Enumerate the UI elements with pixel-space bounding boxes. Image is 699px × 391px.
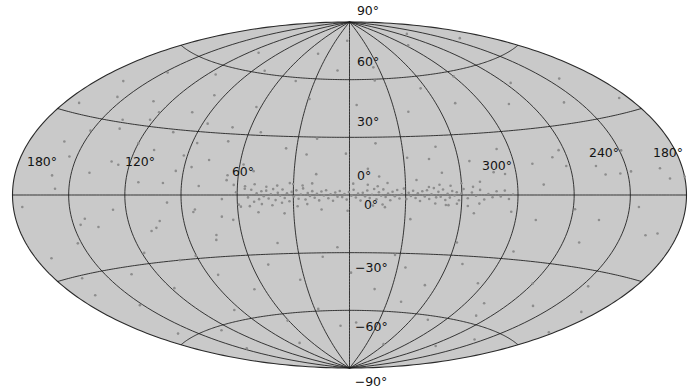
source-point bbox=[299, 278, 302, 281]
source-point bbox=[414, 197, 417, 200]
source-point bbox=[578, 241, 581, 244]
source-point bbox=[427, 318, 430, 321]
source-point bbox=[77, 242, 80, 245]
source-point bbox=[294, 80, 297, 83]
source-point bbox=[336, 246, 339, 249]
source-point bbox=[172, 131, 175, 134]
source-point bbox=[441, 171, 444, 174]
source-point bbox=[548, 331, 551, 334]
source-point bbox=[265, 189, 268, 192]
tick-label-lon-180-right: 180° bbox=[653, 145, 683, 160]
tick-label-lon-240: 240° bbox=[589, 145, 619, 160]
source-point bbox=[289, 182, 292, 185]
source-point bbox=[428, 186, 431, 189]
source-point bbox=[94, 294, 97, 297]
source-point bbox=[404, 266, 407, 269]
source-point bbox=[297, 197, 300, 200]
source-point bbox=[232, 219, 235, 222]
source-point bbox=[122, 80, 125, 83]
source-point bbox=[350, 271, 353, 274]
source-point bbox=[435, 196, 438, 199]
source-point bbox=[232, 184, 235, 187]
source-point bbox=[487, 193, 490, 196]
source-point bbox=[428, 158, 431, 161]
source-point bbox=[143, 252, 146, 255]
source-point bbox=[267, 197, 270, 200]
source-point bbox=[152, 100, 155, 103]
source-point bbox=[595, 165, 598, 168]
tick-label-lon-0: 0° bbox=[364, 197, 378, 212]
source-point bbox=[118, 127, 121, 130]
source-point bbox=[380, 194, 383, 197]
tick-label-lat-60: 60° bbox=[357, 54, 379, 69]
source-point bbox=[300, 193, 303, 196]
source-point bbox=[51, 174, 54, 177]
source-point bbox=[276, 242, 279, 245]
source-point bbox=[458, 37, 461, 40]
source-point bbox=[260, 190, 263, 193]
source-point bbox=[311, 182, 314, 185]
source-point bbox=[296, 205, 299, 208]
source-point bbox=[445, 204, 448, 207]
source-point bbox=[504, 173, 507, 176]
source-point bbox=[227, 140, 230, 143]
source-point bbox=[479, 189, 482, 192]
source-point bbox=[442, 188, 445, 191]
source-point bbox=[260, 131, 263, 134]
source-point bbox=[286, 192, 289, 195]
source-point bbox=[166, 71, 169, 74]
source-point bbox=[669, 177, 672, 180]
source-point bbox=[274, 199, 277, 202]
aitoff-projection-plot: 180°120°60°0°300°240°180°90°60°30°0°−30°… bbox=[0, 0, 699, 391]
source-point bbox=[542, 183, 545, 186]
source-point bbox=[473, 212, 476, 215]
source-point bbox=[475, 314, 478, 317]
source-point bbox=[352, 189, 355, 192]
source-point bbox=[434, 145, 437, 148]
source-point bbox=[587, 285, 590, 288]
source-point bbox=[329, 193, 332, 196]
source-point bbox=[355, 104, 358, 107]
source-point bbox=[477, 282, 480, 285]
source-point bbox=[473, 338, 476, 341]
source-point bbox=[439, 195, 442, 198]
source-point bbox=[247, 196, 250, 199]
source-point bbox=[68, 155, 71, 158]
source-point bbox=[192, 211, 195, 214]
source-point bbox=[281, 188, 284, 191]
source-point bbox=[407, 192, 410, 195]
source-point bbox=[281, 202, 284, 205]
source-point bbox=[371, 194, 374, 197]
source-point bbox=[378, 175, 381, 178]
source-point bbox=[321, 255, 324, 258]
source-point bbox=[357, 192, 360, 195]
source-point bbox=[348, 191, 351, 194]
source-point bbox=[417, 192, 420, 195]
source-point bbox=[290, 191, 293, 194]
source-point bbox=[153, 149, 156, 152]
source-point bbox=[508, 198, 511, 201]
source-point bbox=[451, 190, 454, 193]
source-point bbox=[467, 205, 470, 208]
source-point bbox=[406, 157, 409, 160]
source-point bbox=[240, 205, 243, 208]
source-point bbox=[434, 345, 437, 348]
source-point bbox=[116, 96, 119, 99]
source-point bbox=[137, 142, 140, 145]
source-point bbox=[415, 179, 418, 182]
source-point bbox=[504, 189, 507, 192]
source-point bbox=[475, 195, 478, 198]
source-point bbox=[315, 173, 318, 176]
source-point bbox=[406, 33, 409, 36]
source-point bbox=[453, 194, 456, 197]
source-point bbox=[394, 195, 397, 198]
source-point bbox=[510, 210, 513, 213]
source-point bbox=[162, 182, 165, 185]
source-point bbox=[183, 154, 186, 157]
source-point bbox=[421, 190, 424, 193]
source-point bbox=[245, 347, 248, 350]
source-point bbox=[387, 192, 390, 195]
source-point bbox=[338, 190, 341, 193]
source-point bbox=[438, 183, 441, 186]
source-point bbox=[81, 277, 84, 280]
